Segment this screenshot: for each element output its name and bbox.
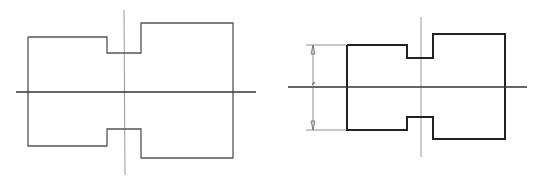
left-shaft-outline [28, 23, 233, 158]
left-drawing [16, 10, 256, 175]
drawing-canvas [0, 0, 537, 180]
right-drawing [288, 17, 527, 157]
dimension-break-mark [312, 82, 315, 85]
